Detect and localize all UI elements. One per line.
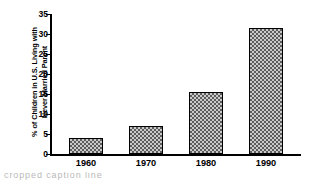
- y-tick-label: 25: [38, 49, 48, 59]
- y-axis-title-container: % of Children in U.S. Living with Never …: [0, 0, 34, 160]
- y-tick-label: 35: [38, 9, 48, 19]
- bar-1980: [189, 92, 223, 154]
- bar-1990: [249, 28, 283, 154]
- y-tick-label: 10: [38, 109, 48, 119]
- bar-1960: [69, 138, 103, 154]
- x-tick-label-1970: 1970: [116, 158, 176, 168]
- x-axis-line: [50, 154, 301, 156]
- y-tick-label: 30: [38, 29, 48, 39]
- bar-chart-figure: % of Children in U.S. Living with Never …: [0, 0, 312, 180]
- plot-area: 05101520253035 1960197019801990: [50, 14, 301, 155]
- x-tick-label-1990: 1990: [236, 158, 296, 168]
- x-tick-label-1980: 1980: [176, 158, 236, 168]
- y-tick-label: 0: [43, 149, 48, 159]
- caption-strip: cropped caption line: [0, 172, 312, 180]
- y-tick-label: 5: [43, 129, 48, 139]
- y-axis-line: [50, 14, 52, 155]
- x-tick-label-1960: 1960: [56, 158, 116, 168]
- y-tick-label: 15: [38, 89, 48, 99]
- caption-fragment: cropped caption line: [4, 172, 103, 180]
- y-tick-label: 20: [38, 69, 48, 79]
- bar-1970: [129, 126, 163, 154]
